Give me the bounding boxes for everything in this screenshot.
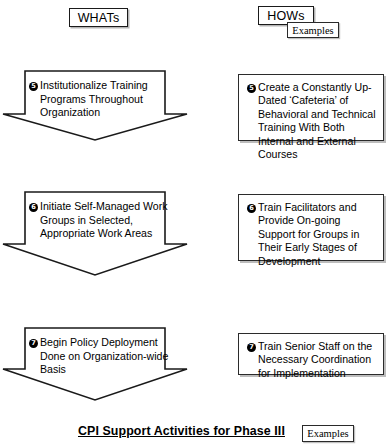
number-badge-7: 7	[29, 339, 38, 348]
number-badge-6: 6	[29, 203, 38, 212]
footer-examples-tag: Examples	[302, 425, 354, 442]
hows-box-7: 7Train Senior Staff on the Necessary Coo…	[238, 333, 384, 375]
hows-box-5: 5Create a Constantly Up-Dated ‘Cafeteria…	[238, 74, 384, 141]
hows-examples-label: Examples	[292, 25, 333, 36]
whats-column-header-label: WHATs	[78, 11, 120, 25]
diagram-caption: CPI Support Activities for Phase III	[78, 424, 285, 438]
whats-item-text-6: 6Initiate Self-Managed Work Groups in Se…	[29, 200, 169, 241]
hows-column-header-label: HOWs	[267, 9, 305, 23]
whats-item-text-5: 5Institutionalize Training Programs Thro…	[29, 79, 169, 120]
hows-item-text-6: 6Train Facilitators and Provide On-going…	[247, 201, 376, 268]
whats-arrow-block-7: 7Begin Policy Deployment Done on Organiz…	[2, 327, 188, 402]
hows-item-text-5: 5Create a Constantly Up-Dated ‘Cafeteria…	[247, 81, 376, 161]
hows-item-label-5: Create a Constantly Up-Dated ‘Cafeteria’…	[258, 81, 376, 160]
footer-examples-label: Examples	[307, 428, 348, 439]
number-badge-5: 5	[247, 84, 256, 93]
hows-examples-tag: Examples	[287, 22, 339, 38]
hows-box-6: 6Train Facilitators and Provide On-going…	[238, 194, 384, 261]
number-badge-6: 6	[247, 204, 256, 213]
hows-item-label-6: Train Facilitators and Provide On-going …	[258, 201, 359, 267]
whats-column-header: WHATs	[69, 8, 128, 27]
whats-item-text-7: 7Begin Policy Deployment Done on Organiz…	[29, 336, 169, 377]
hows-item-label-7: Train Senior Staff on the Necessary Coor…	[258, 340, 372, 379]
whats-item-label-7: Begin Policy Deployment Done on Organiza…	[40, 336, 168, 375]
hows-item-text-7: 7Train Senior Staff on the Necessary Coo…	[247, 340, 376, 380]
number-badge-7: 7	[247, 343, 256, 352]
whats-item-label-6: Initiate Self-Managed Work Groups in Sel…	[40, 200, 168, 239]
whats-item-label-5: Institutionalize Training Programs Throu…	[40, 79, 148, 118]
whats-arrow-block-5: 5Institutionalize Training Programs Thro…	[2, 70, 188, 142]
number-badge-5: 5	[29, 82, 38, 91]
whats-arrow-block-6: 6Initiate Self-Managed Work Groups in Se…	[2, 191, 188, 277]
